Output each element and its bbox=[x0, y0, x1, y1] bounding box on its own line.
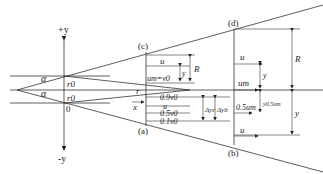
label-dyc: Δyc bbox=[204, 106, 216, 114]
label-r: r bbox=[136, 86, 140, 96]
label-01v0: 0.1v0 bbox=[160, 117, 178, 126]
label-R: R bbox=[193, 64, 200, 74]
label-u: u bbox=[160, 56, 165, 66]
label-r0-bottom: r0 bbox=[67, 93, 76, 103]
label-section-d: (d) bbox=[228, 18, 239, 28]
label-section-b: (b) bbox=[228, 148, 239, 158]
label-main-u-bottom: u bbox=[240, 125, 245, 135]
label-y: y bbox=[181, 69, 186, 78]
label-y-neg: -y bbox=[58, 153, 66, 164]
label-main-y-bottom: y bbox=[294, 108, 299, 118]
label-origin: 0 bbox=[66, 104, 71, 114]
label-main-y05um: y0.5um bbox=[262, 101, 281, 107]
labels-layer: +y -y α α r0 r0 0 r x (c) (a) (d) (b) u … bbox=[0, 0, 323, 174]
label-main-y-top: y bbox=[262, 71, 267, 80]
label-main-um: um bbox=[238, 78, 250, 88]
label-section-c: (c) bbox=[138, 41, 148, 51]
label-main-05um: 0.5um bbox=[236, 103, 256, 112]
label-y-pos: +y bbox=[58, 24, 69, 35]
label-dyb: Δyb bbox=[216, 106, 228, 114]
label-alpha-top: α bbox=[41, 73, 47, 84]
label-main-R: R bbox=[294, 54, 301, 64]
label-09v0: 0.9v0 bbox=[160, 93, 178, 102]
label-section-a: (a) bbox=[138, 126, 148, 136]
label-main-u-top: u bbox=[240, 52, 245, 62]
label-um-eq-v0: um=v0 bbox=[147, 74, 170, 83]
label-x: x bbox=[132, 102, 137, 112]
jet-flow-diagram: +y -y α α r0 r0 0 r x (c) (a) (d) (b) u … bbox=[0, 0, 323, 174]
label-alpha-bottom: α bbox=[41, 88, 47, 99]
label-r0-top: r0 bbox=[67, 79, 76, 89]
